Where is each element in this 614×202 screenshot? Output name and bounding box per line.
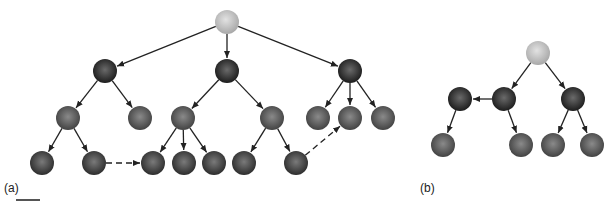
edge-arrow — [545, 63, 565, 89]
tree-node-mid — [171, 106, 195, 130]
edge-arrow — [578, 110, 587, 133]
tree-node-mid — [56, 106, 80, 130]
tree-node-root — [215, 10, 239, 34]
edge-arrow — [512, 63, 531, 89]
edge-arrow — [238, 26, 338, 66]
edge-arrow — [112, 81, 132, 108]
tree-node-leaf — [232, 151, 256, 175]
edge-arrow — [49, 128, 62, 151]
edge-arrow — [117, 26, 216, 66]
edge-arrow — [190, 128, 207, 152]
edge-arrow — [76, 80, 98, 107]
panel-b-label: (b) — [420, 181, 435, 195]
edge-arrow — [74, 128, 87, 151]
edge-arrow — [558, 110, 568, 133]
tree-node-mid — [260, 106, 284, 130]
tree-node-mid — [128, 106, 152, 130]
tree-node-leaf — [284, 151, 308, 175]
tree-node-leaf — [82, 151, 106, 175]
edge-arrow — [235, 80, 263, 109]
panel-a-label: (a) — [4, 181, 19, 195]
tree-node-mid — [541, 133, 565, 157]
edge-arrow — [357, 81, 376, 108]
edge-arrow — [508, 110, 516, 133]
tree-node-mid — [371, 106, 395, 130]
edge-arrow — [192, 80, 219, 109]
tree-node-inner — [93, 59, 117, 83]
dashed-arrow — [305, 126, 340, 155]
edge-arrow — [251, 128, 266, 152]
tree-node-mid — [580, 133, 604, 157]
tree-node-root — [526, 41, 550, 65]
tree-node-inner — [492, 87, 516, 111]
tree-node-mid — [306, 106, 330, 130]
tree-node-mid — [431, 133, 455, 157]
tree-node-inner — [338, 59, 362, 83]
tree-node-leaf — [141, 151, 165, 175]
tree-node-inner — [215, 59, 239, 83]
tree-diagram — [0, 0, 614, 202]
tree-node-leaf — [202, 151, 226, 175]
edge-arrow — [448, 110, 456, 133]
decorative-rule — [16, 199, 40, 201]
tree-node-inner — [561, 87, 585, 111]
tree-node-leaf — [30, 151, 54, 175]
edge-arrow — [325, 81, 343, 107]
tree-node-inner — [448, 87, 472, 111]
tree-node-leaf — [172, 151, 196, 175]
edge-arrow — [278, 129, 290, 152]
tree-node-mid — [509, 133, 533, 157]
tree-node-mid — [338, 106, 362, 130]
edge-arrow — [160, 128, 176, 152]
